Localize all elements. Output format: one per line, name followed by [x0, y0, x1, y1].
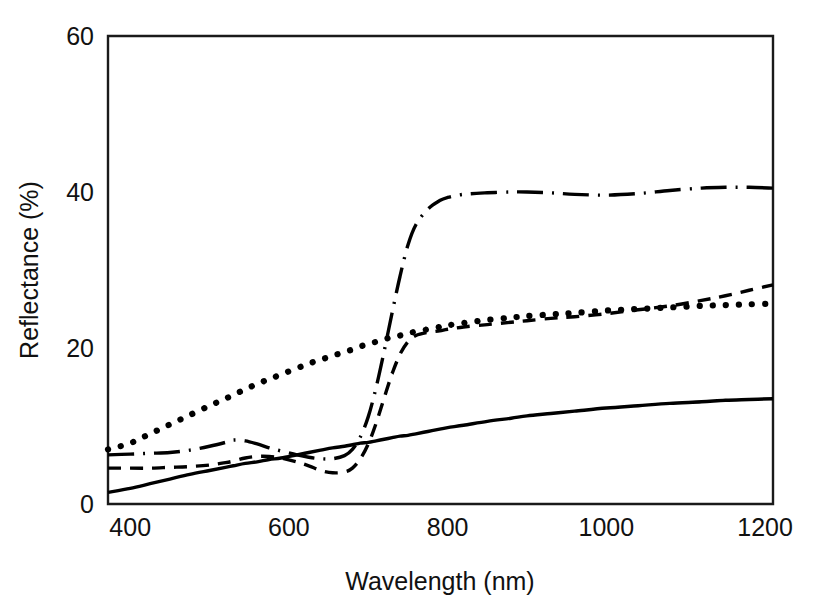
- x-tick-label: 1200: [737, 513, 793, 541]
- x-tick-label: 800: [427, 513, 469, 541]
- chart-figure: 0204060 40060080010001200 Wavelength (nm…: [0, 0, 820, 615]
- reflectance-chart: 0204060 40060080010001200 Wavelength (nm…: [0, 0, 820, 615]
- y-tick-label: 40: [66, 178, 94, 206]
- y-tick-label: 20: [66, 334, 94, 362]
- x-axis-title: Wavelength (nm): [345, 567, 534, 595]
- y-axis-title: Reflectance (%): [15, 181, 43, 359]
- y-tick-label: 0: [80, 490, 94, 518]
- x-tick-label: 1000: [579, 513, 635, 541]
- x-tick-label: 400: [109, 513, 151, 541]
- x-tick-label: 600: [268, 513, 310, 541]
- y-tick-label: 60: [66, 22, 94, 50]
